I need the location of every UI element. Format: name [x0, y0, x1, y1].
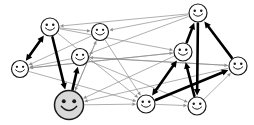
thin-edge — [33, 53, 173, 68]
smiley-eye-icon — [82, 54, 84, 56]
smiley-face-icon — [188, 97, 206, 115]
smiley-eye-icon — [96, 29, 98, 31]
smiley-eye-icon — [142, 100, 144, 102]
smiley-face-icon — [55, 91, 84, 120]
thin-arrowhead — [87, 29, 91, 32]
smiley-eye-icon — [72, 99, 76, 103]
smiley-eye-icon — [22, 66, 24, 68]
bold-edge — [30, 41, 41, 56]
smiley-eye-icon — [102, 29, 104, 31]
bold-edge — [208, 27, 231, 58]
thin-edge — [113, 15, 188, 30]
smiley-eye-icon — [200, 9, 202, 11]
graph-node[interactable] — [55, 91, 84, 120]
graph-node[interactable] — [174, 43, 192, 61]
bold-edge — [52, 37, 63, 83]
smiley-eye-icon — [194, 9, 196, 11]
graph-canvas — [0, 0, 254, 125]
smiley-face-icon — [12, 61, 29, 78]
smiley-eye-icon — [179, 48, 181, 50]
graph-node[interactable] — [12, 61, 29, 78]
smiley-eye-icon — [46, 23, 48, 25]
thin-arrowhead — [183, 104, 187, 107]
smiley-eye-icon — [185, 48, 187, 50]
thin-edge — [93, 58, 228, 66]
smiley-eye-icon — [193, 102, 195, 104]
thin-arrowhead — [137, 92, 140, 96]
smiley-eye-icon — [52, 23, 54, 25]
graph-node[interactable] — [41, 18, 59, 36]
smiley-eye-icon — [76, 54, 78, 56]
smiley-eye-icon — [62, 99, 66, 103]
thin-edge — [156, 104, 183, 105]
graph-node[interactable] — [92, 24, 109, 41]
smiley-face-icon — [229, 57, 247, 75]
bold-edge — [187, 68, 194, 95]
bold-edge — [156, 66, 173, 90]
smiley-face-icon — [189, 4, 207, 22]
thin-edge — [33, 59, 71, 67]
smiley-eye-icon — [199, 102, 201, 104]
smiley-face-icon — [137, 95, 155, 113]
graph-node[interactable] — [137, 95, 155, 113]
thin-arrowhead — [60, 24, 64, 27]
bold-edge — [187, 29, 192, 42]
smiley-eye-icon — [148, 100, 150, 102]
smiley-eye-icon — [240, 62, 242, 64]
thin-edge — [58, 33, 136, 95]
smiley-face-icon — [174, 43, 192, 61]
thin-arrowhead — [109, 28, 113, 31]
thin-arrowhead — [89, 51, 93, 54]
graph-node[interactable] — [188, 97, 206, 115]
smiley-eye-icon — [16, 66, 18, 68]
bold-edge — [73, 73, 77, 89]
thin-arrowhead — [84, 99, 88, 102]
thin-arrowhead — [169, 48, 173, 51]
thin-arrowhead — [132, 99, 136, 102]
bold-arrowhead — [61, 82, 67, 89]
thin-arrowhead — [132, 102, 136, 105]
smiley-eye-icon — [234, 62, 236, 64]
thin-edge — [84, 104, 132, 105]
graph-node[interactable] — [189, 4, 207, 22]
graph-node[interactable] — [229, 57, 247, 75]
node-link-graph — [0, 0, 254, 125]
smiley-face-icon — [41, 18, 59, 36]
smiley-face-icon — [92, 24, 109, 41]
thin-edge — [60, 29, 170, 50]
node-layer — [12, 4, 248, 120]
bold-edge — [197, 23, 198, 89]
bold-arrowhead — [73, 67, 79, 74]
smiley-face-icon — [72, 49, 89, 66]
graph-node[interactable] — [72, 49, 89, 66]
